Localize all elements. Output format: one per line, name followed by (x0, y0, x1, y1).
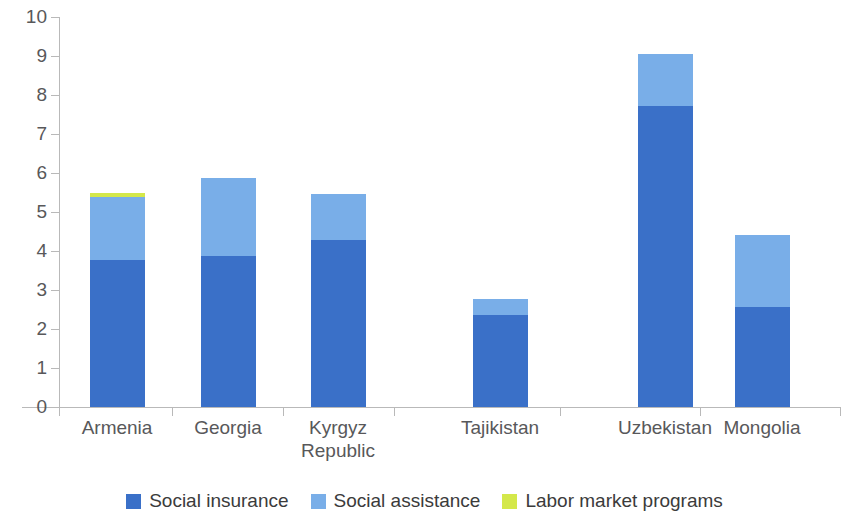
legend-item[interactable]: Social insurance (126, 491, 288, 511)
y-axis-tick-label: 7 (3, 124, 47, 143)
y-axis-tick-label: 3 (3, 280, 47, 299)
y-axis-tick (51, 368, 60, 369)
y-axis-tick-label: 1 (3, 358, 47, 377)
y-axis-tick-label-wrap: 10 (0, 7, 47, 26)
y-axis-tick-label: 10 (3, 7, 47, 26)
bar-segment-social-insurance[interactable] (201, 256, 256, 407)
y-axis-tick-label-wrap: 7 (0, 124, 47, 143)
y-axis-tick-label: 8 (3, 85, 47, 104)
y-axis-tick-label: 2 (3, 319, 47, 338)
x-axis-category-label-line: Kyrgyz (263, 416, 413, 439)
bar-segment-social-insurance[interactable] (311, 240, 366, 407)
y-axis-tick (51, 56, 60, 57)
stacked-bar[interactable] (473, 299, 528, 407)
bar-segment-social-insurance[interactable] (638, 106, 693, 407)
x-axis-category-label-line: Republic (263, 439, 413, 462)
y-axis-tick-label-wrap: 6 (0, 163, 47, 182)
legend-item-label: Social assistance (334, 491, 481, 511)
bar-group (311, 17, 366, 407)
x-axis-tick (394, 407, 395, 416)
y-axis-tick (51, 290, 60, 291)
y-axis-tick (51, 95, 60, 96)
y-axis-tick-label: 5 (3, 202, 47, 221)
y-axis-tick-label-wrap: 1 (0, 358, 47, 377)
y-axis-tick-label-wrap: 4 (0, 241, 47, 260)
y-axis-tick (51, 329, 60, 330)
y-axis-tick-label: 4 (3, 241, 47, 260)
bar-group (735, 17, 790, 407)
bar-segment-social-assistance[interactable] (90, 197, 145, 260)
legend-item-label: Social insurance (149, 491, 288, 511)
x-axis-tick (283, 407, 284, 416)
bar-group (638, 17, 693, 407)
y-axis-tick (51, 134, 60, 135)
y-axis-tick-label-wrap: 8 (0, 85, 47, 104)
bar-segment-social-assistance[interactable] (735, 235, 790, 308)
bar-segment-social-insurance[interactable] (473, 315, 528, 407)
x-axis-line (22, 407, 840, 408)
bar-segment-social-assistance[interactable] (311, 194, 366, 240)
stacked-bar[interactable] (311, 194, 366, 407)
legend-item[interactable]: Labor market programs (502, 491, 722, 511)
x-axis-category-label-line: Mongolia (687, 416, 837, 439)
x-axis-tick (59, 407, 60, 416)
bar-segment-social-insurance[interactable] (90, 260, 145, 407)
bar-group (473, 17, 528, 407)
legend-swatch-social-assistance (311, 494, 326, 509)
y-axis-tick-label: 9 (3, 46, 47, 65)
y-axis-tick-label-wrap: 9 (0, 46, 47, 65)
x-axis-category-label-line: Tajikistan (425, 416, 575, 439)
bar-segment-social-assistance[interactable] (201, 178, 256, 256)
stacked-bar-chart: 109876543210 ArmeniaGeorgiaKyrgyzRepubli… (0, 0, 849, 515)
y-axis-tick-label-wrap: 5 (0, 202, 47, 221)
x-axis-tick (172, 407, 173, 416)
legend-swatch-labor-market-programs (502, 494, 517, 509)
y-axis-tick (51, 251, 60, 252)
bar-segment-social-assistance[interactable] (638, 54, 693, 105)
chart-legend: Social insuranceSocial assistanceLabor m… (0, 487, 849, 515)
stacked-bar[interactable] (90, 193, 145, 407)
x-axis-tick (700, 407, 701, 416)
x-axis-tick (560, 407, 561, 416)
x-axis-category-label: Tajikistan (425, 416, 575, 439)
y-axis-tick-label: 6 (3, 163, 47, 182)
x-axis-category-label: KyrgyzRepublic (263, 416, 413, 462)
y-axis-tick-label-wrap: 0 (0, 397, 47, 416)
stacked-bar[interactable] (201, 178, 256, 407)
y-axis-tick-label-wrap: 2 (0, 319, 47, 338)
bar-group (201, 17, 256, 407)
stacked-bar[interactable] (638, 54, 693, 407)
y-axis-tick (51, 212, 60, 213)
legend-item[interactable]: Social assistance (311, 491, 481, 511)
y-axis-tick-label: 0 (3, 397, 47, 416)
x-axis-category-label: Mongolia (687, 416, 837, 439)
stacked-bar[interactable] (735, 235, 790, 407)
x-axis-tick (840, 407, 841, 416)
y-axis-tick-label-wrap: 3 (0, 280, 47, 299)
y-axis-tick (51, 17, 60, 18)
legend-swatch-social-insurance (126, 494, 141, 509)
y-axis-tick (51, 173, 60, 174)
bar-segment-social-assistance[interactable] (473, 299, 528, 315)
bar-group (90, 17, 145, 407)
legend-item-label: Labor market programs (525, 491, 722, 511)
bar-segment-social-insurance[interactable] (735, 307, 790, 407)
